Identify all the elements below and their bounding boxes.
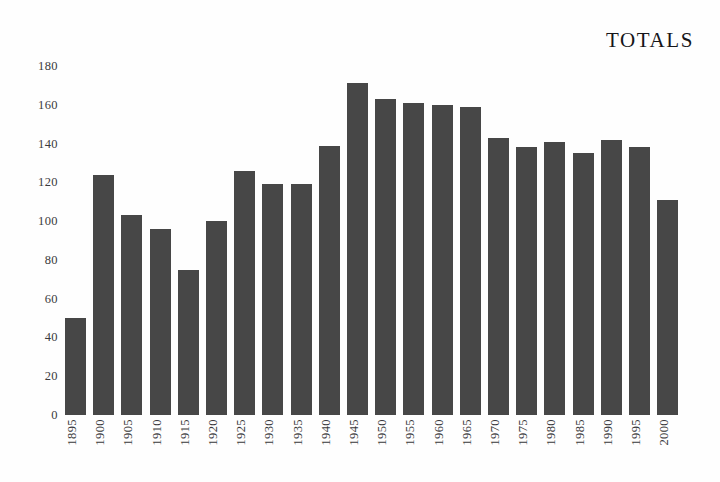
x-axis-tick-label: 2000 — [657, 419, 678, 446]
y-axis-tick-label: 140 — [0, 136, 58, 151]
bar — [347, 83, 368, 415]
x-axis-tick-label: 1950 — [375, 419, 396, 446]
x-axis-tick-label: 1935 — [291, 419, 312, 446]
bar — [460, 107, 481, 415]
x-axis-tick-label: 1910 — [150, 419, 171, 446]
bar — [262, 184, 283, 415]
bar — [65, 318, 86, 415]
bar — [375, 99, 396, 415]
x-axis-tick-label: 1980 — [544, 419, 565, 446]
y-axis-tick-label: 100 — [0, 214, 58, 229]
x-axis-tick-label: 1955 — [403, 419, 424, 446]
x-axis-tick-label: 1960 — [432, 419, 453, 446]
x-axis-tick-label: 1930 — [262, 419, 283, 446]
bar-chart-figure: TOTALS 020406080100120140160180 18951900… — [0, 0, 720, 482]
bar — [403, 103, 424, 415]
y-axis-tick-label: 60 — [0, 291, 58, 306]
bar — [178, 270, 199, 415]
x-axis-tick-label: 1945 — [347, 419, 368, 446]
bar — [234, 171, 255, 415]
bar — [544, 142, 565, 415]
bar-series — [64, 66, 684, 415]
bar — [573, 153, 594, 415]
x-axis-tick-label: 1965 — [460, 419, 481, 446]
bar — [121, 215, 142, 415]
x-axis-tick-label: 1905 — [121, 419, 142, 446]
x-axis-tick-label: 1990 — [601, 419, 622, 446]
x-axis-tick-label: 1920 — [206, 419, 227, 446]
page-title: TOTALS — [606, 28, 694, 53]
bar — [516, 147, 537, 415]
x-axis-tick-label: 1995 — [629, 419, 650, 446]
y-axis-tick-label: 20 — [0, 369, 58, 384]
x-axis-tick-label: 1940 — [319, 419, 340, 446]
x-axis-tick-label: 1895 — [65, 419, 86, 446]
x-axis-tick-label: 1915 — [178, 419, 199, 446]
y-axis-tick-label: 160 — [0, 97, 58, 112]
x-axis-tick-label: 1925 — [234, 419, 255, 446]
bar — [488, 138, 509, 415]
y-axis-tick-label: 120 — [0, 175, 58, 190]
bar — [629, 147, 650, 415]
bar — [93, 175, 114, 415]
bar — [319, 146, 340, 416]
y-axis: 020406080100120140160180 — [0, 66, 58, 415]
x-axis-tick-label: 1970 — [488, 419, 509, 446]
bar — [657, 200, 678, 415]
bar — [291, 184, 312, 415]
x-axis-tick-label: 1975 — [516, 419, 537, 446]
bar — [601, 140, 622, 415]
y-axis-tick-label: 0 — [0, 408, 58, 423]
x-axis: 1895190019051910191519201925193019351940… — [64, 415, 684, 481]
plot-area — [64, 66, 684, 415]
y-axis-tick-label: 80 — [0, 252, 58, 267]
x-axis-tick-label: 1900 — [93, 419, 114, 446]
x-axis-tick-label: 1985 — [573, 419, 594, 446]
bar — [432, 105, 453, 415]
bar — [206, 221, 227, 415]
y-axis-tick-label: 180 — [0, 59, 58, 74]
bar — [150, 229, 171, 415]
y-axis-tick-label: 40 — [0, 330, 58, 345]
